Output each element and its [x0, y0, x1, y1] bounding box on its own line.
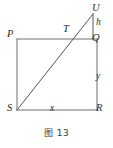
- vertex-label-q: Q: [92, 33, 100, 44]
- measure-label-h: h: [96, 18, 101, 28]
- vertex-label-p: P: [7, 29, 13, 40]
- construction-lines: [17, 14, 93, 110]
- vertex-label-t: T: [63, 24, 69, 35]
- measure-label-x: x: [50, 104, 54, 114]
- vertex-label-r: R: [96, 103, 102, 114]
- vertex-label-s: S: [7, 103, 12, 114]
- segment-su-diagonal: [17, 14, 93, 110]
- measure-label-y: y: [96, 72, 100, 82]
- geometry-figure: P Q R S T U h y x 图 13: [0, 0, 113, 148]
- figure-caption: 图 13: [0, 126, 113, 139]
- vertex-label-u: U: [92, 3, 100, 14]
- diagram-canvas: P Q R S T U h y x: [0, 0, 113, 125]
- rectangle-pqrs: [17, 39, 97, 110]
